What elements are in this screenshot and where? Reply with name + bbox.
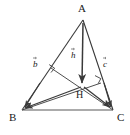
point-label-h: H: [76, 90, 83, 100]
vector-b-letter: b: [33, 59, 38, 69]
geometry-canvas: [0, 0, 130, 135]
vector-h-overarrow-icon: [71, 47, 75, 51]
point-label-b: B: [9, 112, 16, 123]
vector-b-glyph: b: [33, 60, 38, 69]
vector-c-overarrow-icon: [103, 56, 106, 60]
vector-label-h: h: [71, 51, 76, 60]
vector-b-arrow: [25, 87, 81, 108]
vector-label-b: b: [33, 60, 38, 69]
vector-c-letter: c: [103, 59, 107, 69]
vector-h-glyph: h: [71, 51, 76, 60]
vector-c-glyph: c: [103, 60, 107, 69]
point-label-c: C: [117, 112, 124, 123]
vector-h-arrow: [82, 23, 83, 83]
vector-b-overarrow-icon: [33, 56, 37, 60]
point-label-a: A: [78, 3, 86, 14]
geometry-figure: A B C H b h: [0, 0, 130, 135]
right-angle-on-ac-icon: [95, 76, 101, 84]
vector-label-c: c: [103, 60, 107, 69]
vector-h-letter: h: [71, 50, 76, 60]
segment-altitude-from-b: [22, 83, 101, 110]
